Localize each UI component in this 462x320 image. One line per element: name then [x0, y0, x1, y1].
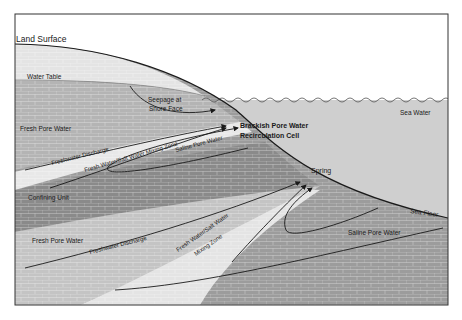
label-seepage-1: Seepage at — [148, 96, 181, 104]
label-spring: Spring — [311, 167, 331, 175]
label-confining-unit: Confining Unit — [28, 194, 69, 202]
label-saline-pore-water-lower: Saline Pore Water — [348, 229, 401, 236]
label-brackish-cell-2: Recirculation Cell — [240, 132, 299, 139]
groundwater-diagram: Land Surface Water Table Seepage at Shor… — [0, 0, 462, 320]
label-sea-water: Sea Water — [400, 109, 431, 116]
label-fresh-pore-water-lower: Fresh Pore Water — [32, 237, 84, 244]
label-water-table: Water Table — [27, 73, 62, 80]
label-land-surface: Land Surface — [16, 34, 67, 44]
label-brackish-cell-1: Brackish Pore Water — [240, 122, 308, 129]
label-fresh-pore-water-upper: Fresh Pore Water — [20, 125, 72, 132]
label-seepage-2: Shore Face — [149, 105, 183, 112]
